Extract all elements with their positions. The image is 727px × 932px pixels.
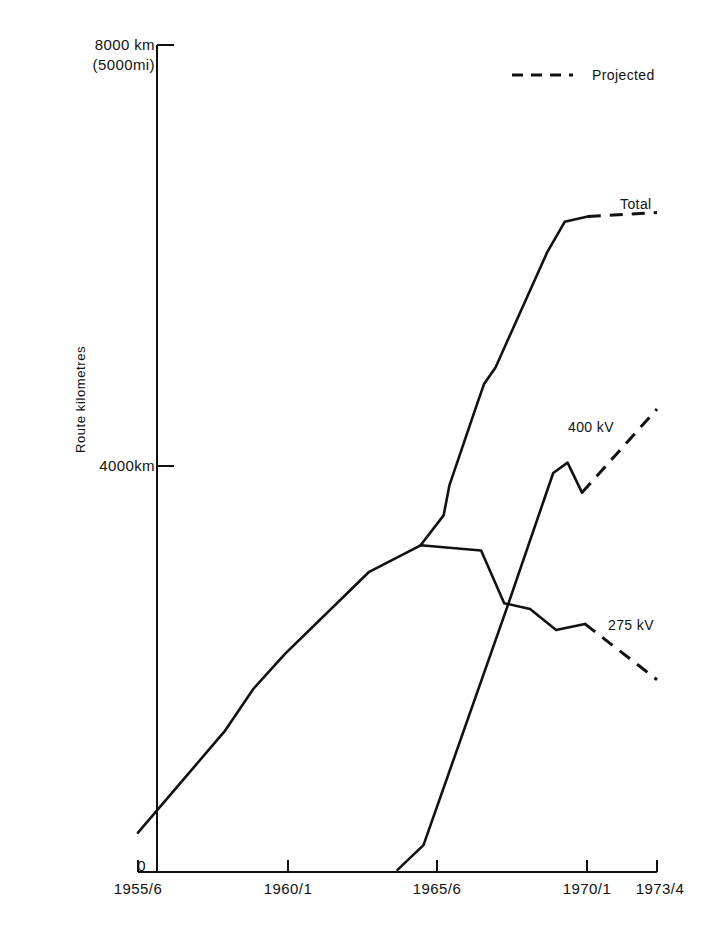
y-axis-title: Route kilometres: [73, 320, 88, 480]
series-line-400kv: [398, 463, 583, 870]
series-line-total-projected: [588, 213, 657, 217]
x-tick-label-1973: 1973/4: [620, 880, 700, 897]
x-tick-label-1965: 1965/6: [397, 880, 477, 897]
x-tick-label-1955: 1955/6: [98, 880, 178, 897]
y-axis-top-label-line1: 8000 km: [55, 36, 155, 53]
x-tick-label-1970: 1970/1: [547, 880, 627, 897]
series-line-275kv: [138, 545, 585, 832]
y-axis-mid-label: 4000km: [55, 457, 155, 474]
x-tick-label-1960: 1960/1: [248, 880, 328, 897]
series-line-total: [421, 217, 588, 546]
legend-label-projected: Projected: [592, 67, 655, 83]
y-axis-zero-label: 0: [126, 857, 146, 874]
series-label-total: Total: [620, 196, 652, 212]
series-label-275kv: 275 kV: [608, 617, 654, 633]
series-label-400kv: 400 kV: [568, 419, 614, 435]
y-axis-top-label-line2: (5000mi): [55, 56, 155, 73]
chart-figure: 8000 km (5000mi) 4000km 0 Route kilometr…: [0, 0, 727, 932]
